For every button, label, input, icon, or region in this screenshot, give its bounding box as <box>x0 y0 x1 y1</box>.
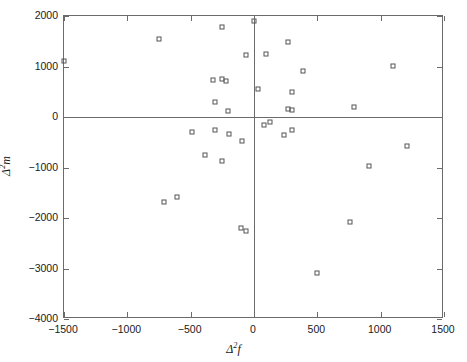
data-point <box>391 63 396 68</box>
plot-area <box>63 15 443 318</box>
y-tick-label: 0 <box>12 110 58 122</box>
y-tick-label: −3000 <box>12 262 58 274</box>
y-axis-tick <box>64 269 69 270</box>
data-point <box>290 127 295 132</box>
y-tick-label: −4000 <box>12 312 58 324</box>
y-axis-tick <box>437 269 442 270</box>
data-point <box>213 127 218 132</box>
data-point <box>261 122 266 127</box>
data-point <box>189 130 194 135</box>
x-tick-label: 1000 <box>368 323 391 335</box>
scatter-plot-figure: −1500−1000−500050010001500 200010000−100… <box>0 0 467 362</box>
data-point <box>256 86 261 91</box>
x-axis-tick <box>317 312 318 317</box>
x-axis-tick <box>127 16 128 21</box>
data-point <box>212 99 217 104</box>
x-axis-tick <box>254 312 255 317</box>
y-tick-label: −1000 <box>12 161 58 173</box>
y-axis-tick <box>437 319 442 320</box>
data-point <box>219 25 224 30</box>
x-tick-label: −500 <box>178 323 202 335</box>
x-axis-tick <box>127 312 128 317</box>
x-axis-tick <box>444 16 445 21</box>
y-tick-label: 1000 <box>12 60 58 72</box>
data-point <box>239 139 244 144</box>
data-point <box>243 52 248 57</box>
x-axis-tick <box>381 16 382 21</box>
x-tick-label: 1500 <box>431 323 454 335</box>
data-point <box>223 78 228 83</box>
x-zero-reference-line <box>254 16 255 317</box>
y-tick-label: −2000 <box>12 211 58 223</box>
data-point <box>244 228 249 233</box>
data-point <box>301 68 306 73</box>
y-axis-tick <box>437 67 442 68</box>
y-axis-tick <box>437 168 442 169</box>
y-axis-tick <box>437 117 442 118</box>
data-point <box>175 195 180 200</box>
y-axis-tick <box>64 16 69 17</box>
data-point <box>202 153 207 158</box>
y-axis-tick <box>64 67 69 68</box>
x-axis-tick <box>254 16 255 21</box>
data-point <box>238 225 243 230</box>
data-point <box>290 89 295 94</box>
x-tick-label: −1000 <box>112 323 142 335</box>
x-axis-title: Δ2f <box>0 341 467 357</box>
data-point <box>162 199 167 204</box>
x-axis-tick <box>381 312 382 317</box>
y-axis-tick <box>437 218 442 219</box>
data-point <box>220 159 225 164</box>
data-point <box>352 104 357 109</box>
data-point <box>366 164 371 169</box>
data-point <box>281 132 286 137</box>
x-axis-tick <box>191 312 192 317</box>
x-axis-tick <box>444 312 445 317</box>
x-axis-tick <box>317 16 318 21</box>
data-point <box>62 59 67 64</box>
y-tick-label: 2000 <box>12 9 58 21</box>
data-point <box>157 37 162 42</box>
data-point <box>268 120 273 125</box>
y-axis-tick <box>64 117 69 118</box>
x-tick-label: −1500 <box>48 323 78 335</box>
data-point <box>404 144 409 149</box>
x-axis-tick <box>191 16 192 21</box>
y-axis-tick <box>64 168 69 169</box>
data-point <box>264 51 269 56</box>
x-tick-label: 500 <box>308 323 326 335</box>
data-point <box>226 132 231 137</box>
y-axis-tick <box>437 16 442 17</box>
x-tick-label: 0 <box>250 323 256 335</box>
y-axis-tick <box>64 218 69 219</box>
y-axis-title: Δ2m <box>0 156 14 176</box>
data-point <box>211 77 216 82</box>
y-axis-tick <box>64 319 69 320</box>
y-zero-reference-line <box>64 117 442 118</box>
data-point <box>226 108 231 113</box>
data-point <box>315 271 320 276</box>
data-point <box>347 220 352 225</box>
data-point <box>290 108 295 113</box>
x-axis-tick <box>64 312 65 317</box>
data-point <box>285 39 290 44</box>
